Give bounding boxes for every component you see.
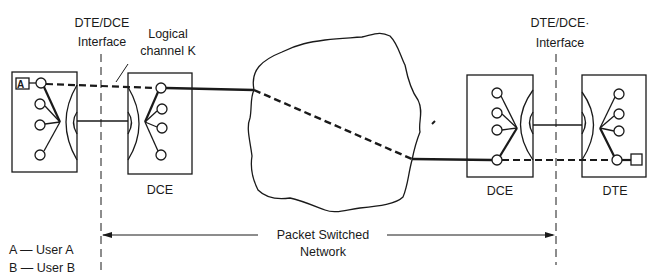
- user-a-tag-text: A: [17, 79, 24, 90]
- virtual-circuit-path: [254, 90, 412, 159]
- network-label-1: Packet Switched: [262, 228, 384, 242]
- right-dte-box: [582, 75, 646, 177]
- arrowhead-right: [545, 232, 555, 238]
- logical-channel-label-1: Logical: [128, 27, 208, 41]
- legend-user-a: A — User A: [9, 243, 74, 257]
- left-dce-label: DCE: [130, 183, 190, 197]
- legend-user-b: B — User B: [9, 261, 75, 275]
- network-label-2: Network: [262, 245, 384, 259]
- right-dte-label: DTE: [585, 184, 645, 198]
- logical-channel-label-2: channel K: [128, 44, 208, 58]
- packet-switched-network-cloud: [248, 33, 420, 211]
- right-interface-label-2: Interface: [510, 36, 610, 50]
- user-b-tag: [631, 154, 642, 165]
- right-interface-label-1: DTE/DCE·: [510, 16, 610, 30]
- left-dte-arc: [66, 85, 77, 160]
- right-dce-label: DCE: [470, 184, 530, 198]
- arrowhead-left: [102, 232, 112, 238]
